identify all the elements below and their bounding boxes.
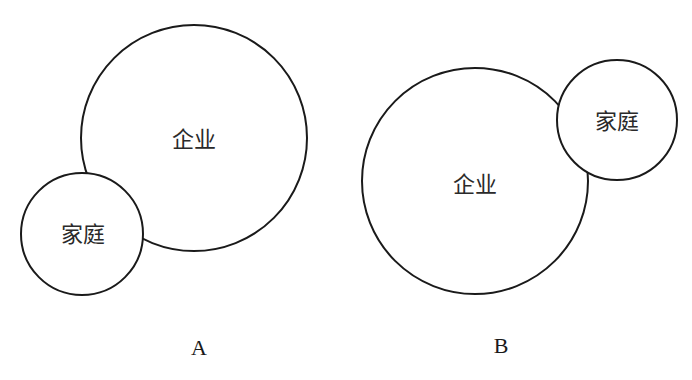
- enterprise-label-a: 企业: [172, 127, 216, 152]
- family-label-a: 家庭: [61, 222, 105, 247]
- enterprise-label-b: 企业: [453, 172, 497, 197]
- diagram-canvas: 企业 家庭 A 企业 家庭 B: [0, 0, 692, 380]
- caption-a: A: [191, 335, 207, 360]
- diagram-b: 企业 家庭 B: [362, 60, 677, 358]
- family-label-b: 家庭: [595, 109, 639, 134]
- caption-b: B: [494, 333, 509, 358]
- diagram-a: 企业 家庭 A: [21, 25, 307, 360]
